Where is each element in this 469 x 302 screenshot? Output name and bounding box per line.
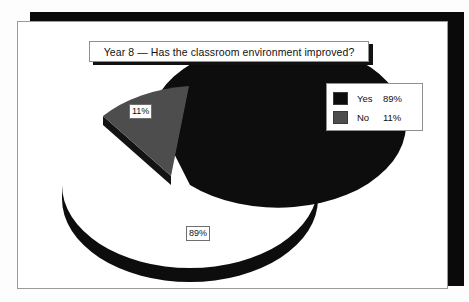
legend-value-yes: 89% — [383, 93, 402, 104]
chart-title-text: Year 8 — Has the classroom environment i… — [104, 46, 355, 58]
chart-legend: Yes 89% No 11% — [326, 83, 423, 131]
data-label-yes: 89% — [186, 226, 210, 241]
legend-item-no: No 11% — [333, 108, 422, 127]
data-label-no: 11% — [129, 104, 152, 119]
legend-item-yes: Yes 89% — [333, 89, 422, 108]
legend-swatch-yes — [333, 92, 348, 105]
legend-label-no: No — [357, 112, 383, 123]
chart-screenshot: Year 8 — Has the classroom environment i… — [0, 0, 469, 302]
legend-value-no: 11% — [383, 112, 401, 123]
legend-swatch-no — [333, 111, 348, 124]
chart-title-box: Year 8 — Has the classroom environment i… — [89, 41, 369, 62]
legend-label-yes: Yes — [357, 93, 383, 104]
